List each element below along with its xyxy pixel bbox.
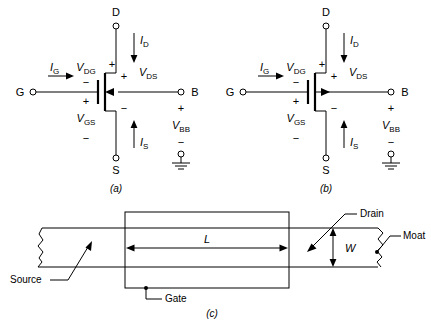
polarity-bb-plus-b: + — [388, 102, 394, 114]
terminal-label-body-b: B — [401, 86, 408, 98]
mosfet-figure: D ID G IG VDG − + VGS − — [0, 0, 431, 331]
polarity-gs-minus-a: − — [83, 132, 89, 144]
current-label-gate-a: IG — [50, 61, 59, 76]
polarity-bb-minus-a: − — [178, 136, 184, 148]
voltage-label-dg-b: VDG — [286, 61, 305, 76]
voltage-label-ds-a: VDS — [139, 66, 157, 81]
voltage-label-dg-a: VDG — [76, 61, 95, 76]
polarity-ds-top-plus-b: + — [319, 58, 325, 70]
dimension-label-length: L — [204, 233, 210, 245]
polarity-ds-inner-plus-b: + — [331, 70, 337, 82]
ground-icon-a — [172, 157, 190, 169]
panel-label-b: (b) — [320, 183, 332, 194]
current-label-drain-b: ID — [350, 34, 359, 49]
dimension-length — [126, 244, 288, 251]
annotation-source: Source — [10, 274, 42, 285]
voltage-label-gs-b: VGS — [287, 112, 306, 127]
current-arrow-source-a — [131, 120, 138, 148]
body-arrow-b — [321, 88, 330, 96]
voltage-label-bb-b: VBB — [382, 119, 400, 134]
polarity-dg-minus-b: − — [293, 76, 299, 88]
current-label-source-a: IS — [140, 136, 148, 151]
terminal-label-drain-b: D — [322, 6, 330, 18]
panel-a: D ID G IG VDG − + VGS − — [16, 6, 199, 194]
annotation-moat: Moat — [403, 230, 425, 241]
terminal-node-drain-b — [323, 23, 329, 29]
ground-node-a — [178, 151, 184, 157]
panel-label-c: (c) — [206, 308, 218, 319]
leader-source — [50, 241, 92, 280]
current-arrow-source-b — [341, 120, 348, 148]
terminal-node-gate-b — [240, 89, 246, 95]
polarity-ds-minus-a: − — [121, 102, 127, 114]
terminal-node-source-b — [323, 155, 329, 161]
current-arrow-drain-b — [341, 33, 348, 63]
voltage-label-gs-a: VGS — [77, 112, 96, 127]
terminal-node-source-a — [113, 155, 119, 161]
current-arrow-gate-b — [258, 73, 284, 80]
terminal-node-drain-a — [113, 23, 119, 29]
current-label-drain-a: ID — [140, 34, 149, 49]
polarity-gs-plus-b: + — [293, 95, 299, 107]
annotation-drain: Drain — [360, 208, 384, 219]
body-arrow-a — [105, 88, 114, 96]
terminal-label-drain-a: D — [112, 6, 120, 18]
polarity-dg-minus-a: − — [83, 76, 89, 88]
ground-icon-b — [382, 157, 400, 169]
polarity-bb-minus-b: − — [388, 136, 394, 148]
current-label-source-b: IS — [350, 136, 358, 151]
terminal-label-body-a: B — [191, 86, 198, 98]
current-arrow-gate-a — [48, 73, 74, 80]
terminal-node-body-a — [178, 89, 184, 95]
panel-b: D ID G IG VDG − + VGS − S — [226, 6, 409, 194]
panel-label-a: (a) — [110, 183, 122, 194]
gate-region — [125, 212, 289, 288]
current-arrow-drain-a — [131, 33, 138, 63]
voltage-label-ds-b: VDS — [349, 66, 367, 81]
polarity-bb-plus-a: + — [178, 102, 184, 114]
annotation-gate: Gate — [165, 293, 187, 304]
terminal-label-source-b: S — [322, 164, 329, 176]
ground-node-b — [388, 151, 394, 157]
polarity-gs-minus-b: − — [293, 132, 299, 144]
terminal-node-gate-a — [30, 89, 36, 95]
polarity-ds-top-plus-a: + — [109, 58, 115, 70]
dimension-label-width: W — [345, 242, 357, 254]
terminal-label-source-a: S — [112, 164, 119, 176]
voltage-label-bb-a: VBB — [172, 119, 190, 134]
polarity-ds-inner-plus-a: + — [121, 70, 127, 82]
polarity-ds-minus-b: − — [331, 102, 337, 114]
panel-c: L W Source Drain Gate — [10, 208, 425, 319]
current-label-gate-b: IG — [260, 61, 269, 76]
terminal-label-gate-b: G — [226, 86, 235, 98]
terminal-label-gate-a: G — [16, 86, 25, 98]
polarity-gs-plus-a: + — [83, 95, 89, 107]
dimension-width — [330, 228, 337, 267]
terminal-node-body-b — [388, 89, 394, 95]
